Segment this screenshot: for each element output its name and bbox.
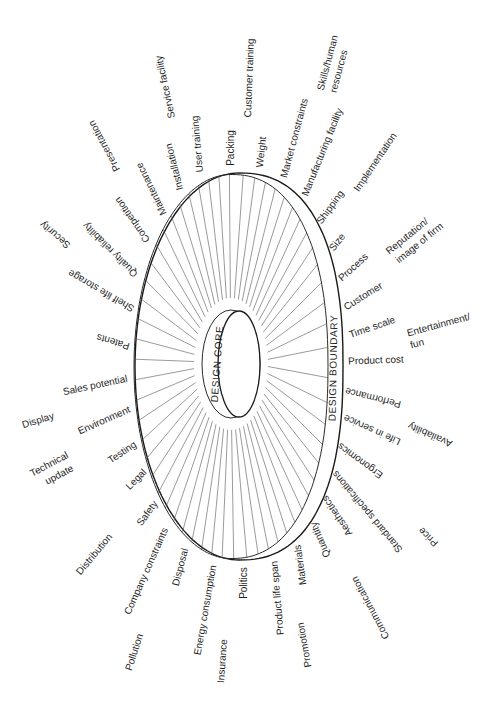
label-user-training: User training xyxy=(189,115,205,172)
label-size: Size xyxy=(327,231,348,253)
label-shipping: Shipping xyxy=(314,188,346,226)
label-sales-potential: Sales potential xyxy=(62,373,128,397)
label-weight: Weight xyxy=(254,136,268,168)
design-boundary-label: DESIGN BOUNDARY xyxy=(327,315,340,422)
label-product-cost: Product cost xyxy=(348,354,404,367)
label-insurance: Insurance xyxy=(215,638,229,683)
label-customer: Customer xyxy=(342,280,385,313)
label-life-in-service: Life in service xyxy=(341,412,402,447)
label-time-scale: Time scale xyxy=(348,314,397,340)
label-display: Display xyxy=(21,410,56,430)
label-company-constraints: Company constraints xyxy=(122,526,170,616)
label-safety: Safety xyxy=(134,498,160,527)
label-quantity: Quantity xyxy=(308,521,333,560)
label-promotion: Promotion xyxy=(295,622,314,669)
label-line: fun xyxy=(409,336,425,350)
label-security: Security xyxy=(38,219,73,251)
label-performance: Performance xyxy=(343,386,402,411)
label-reputation-image-of-firm: Reputation/ image of firm xyxy=(384,210,446,266)
label-skills-human-resources: Skills/human resources xyxy=(315,34,353,95)
label-availability: Availability xyxy=(406,420,453,449)
label-service-facility: Service facility xyxy=(153,55,177,120)
label-implementation: Implementation xyxy=(351,131,398,194)
label-technical-update: Technical update xyxy=(28,449,77,491)
label-entertainment-fun: Entertainment/ fun xyxy=(406,311,475,351)
label-competition: Competition xyxy=(112,195,152,245)
label-disposal: Disposal xyxy=(170,547,191,587)
label-installation: Installation xyxy=(163,142,185,191)
label-communication: Communication xyxy=(349,575,391,642)
design-boundary-diagram: DESIGN CORE DESIGN BOUNDARY Customer tra… xyxy=(0,0,501,704)
label-politics: Politics xyxy=(238,567,249,599)
label-line: Entertainment/ xyxy=(406,311,472,339)
label-process: Process xyxy=(336,251,370,283)
label-maintenance: Maintenance xyxy=(133,160,168,217)
label-energy-consumption: Energy consumption xyxy=(192,564,219,656)
label-environment: Environment xyxy=(76,403,132,436)
label-legal: Legal xyxy=(123,466,148,491)
label-manufacturing-facility: Manufacturing facility xyxy=(299,106,344,197)
label-packing: Packing xyxy=(225,130,236,166)
label-materials: Materials xyxy=(292,544,309,586)
label-product-life-span: Product life span xyxy=(268,560,285,635)
label-testing: Testing xyxy=(106,439,138,466)
label-customer-training: Customer training xyxy=(242,38,256,117)
label-patents: Patents xyxy=(95,332,131,352)
label-distribution: Distribution xyxy=(74,531,115,576)
label-price: Price xyxy=(416,525,440,549)
label-market-constraints: Market constraints xyxy=(278,97,310,179)
design-core: DESIGN CORE xyxy=(202,310,260,418)
label-pollution: Pollution xyxy=(123,632,145,672)
label-presentation: Presentation xyxy=(86,119,122,174)
